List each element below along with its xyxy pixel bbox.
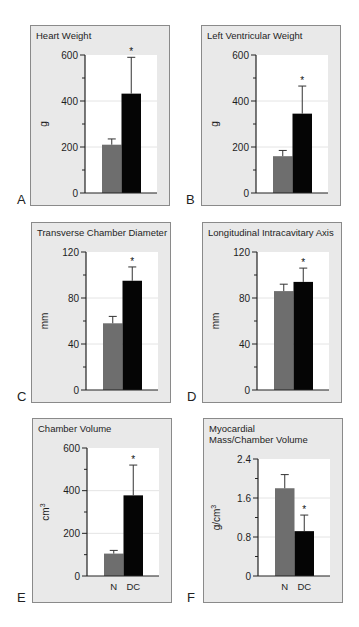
panel-letter-e: E <box>17 590 26 605</box>
y-tick-label: 0.8 <box>237 532 251 543</box>
significance-asterisk: * <box>130 256 134 267</box>
significance-asterisk: * <box>300 75 304 86</box>
y-tick-label: 400 <box>61 96 78 107</box>
bar-dc <box>124 495 144 576</box>
x-tick-label: DC <box>297 581 311 592</box>
y-axis-label: cm3 <box>39 503 51 520</box>
y-tick-label: 600 <box>61 50 78 61</box>
y-tick-label: 400 <box>232 96 249 107</box>
significance-asterisk: * <box>302 504 306 515</box>
significance-asterisk: * <box>129 46 133 57</box>
x-tick-label: N <box>110 581 117 592</box>
y-axis-label: g/cm3 <box>210 505 222 531</box>
y-axis-label: g <box>209 121 220 127</box>
panel-letter-b: B <box>186 192 195 207</box>
y-tick-label: 0 <box>72 188 78 199</box>
y-tick-label: 200 <box>63 528 80 539</box>
bar-chart-svg: N*DC0200400600cm3 <box>33 419 171 602</box>
panel-letter-a: A <box>17 192 26 207</box>
y-tick-label: 80 <box>239 293 251 304</box>
y-tick-label: 200 <box>61 142 78 153</box>
bar-chart-svg: *04080120mm <box>203 223 341 402</box>
bar-n <box>103 323 123 390</box>
y-tick-label: 0 <box>73 385 79 396</box>
y-tick-label: 40 <box>68 339 80 350</box>
bar-chart-svg: N*DC00.81.62.4g/cm3 <box>204 419 342 602</box>
y-tick-label: 200 <box>232 142 249 153</box>
chart-panel-myocardial-mass-chamber-volume: Myocardial Mass/Chamber Volume N*DC00.81… <box>203 418 343 603</box>
bar-dc <box>295 531 315 576</box>
panel-letter-c: C <box>17 389 26 404</box>
bar-dc <box>123 281 143 390</box>
chart-panel-chamber-volume: Chamber Volume N*DC0200400600cm3 <box>32 418 172 603</box>
bar-dc <box>293 114 313 193</box>
y-tick-label: 0 <box>74 571 80 582</box>
bar-n <box>102 145 122 193</box>
significance-asterisk: * <box>301 257 305 268</box>
bar-dc <box>122 94 142 193</box>
y-tick-label: 0 <box>243 188 249 199</box>
bar-dc <box>294 282 314 390</box>
significance-asterisk: * <box>131 454 135 465</box>
bar-n <box>275 488 295 576</box>
y-tick-label: 1.6 <box>237 493 251 504</box>
bar-n <box>274 291 294 390</box>
y-tick-label: 40 <box>239 339 251 350</box>
y-tick-label: 80 <box>68 293 80 304</box>
chart-panel-heart-weight: Heart Weight *0200400600g <box>30 25 170 206</box>
y-tick-label: 0 <box>245 571 251 582</box>
x-tick-label: N <box>281 581 288 592</box>
y-axis-label: g <box>38 121 49 127</box>
y-axis-label: mm <box>39 313 50 330</box>
bar-n <box>273 156 293 193</box>
y-tick-label: 400 <box>63 485 80 496</box>
y-tick-label: 600 <box>232 50 249 61</box>
chart-panel-longitudinal-intracavitary-axis: Longitudinal Intracavitary Axis *0408012… <box>202 222 342 403</box>
bar-chart-svg: *0200400600g <box>31 26 169 205</box>
y-tick-label: 2.4 <box>237 454 251 465</box>
y-tick-label: 600 <box>63 443 80 454</box>
x-tick-label: DC <box>126 581 140 592</box>
y-tick-label: 0 <box>244 385 250 396</box>
bar-chart-svg: *0200400600g <box>202 26 340 205</box>
chart-panel-transverse-chamber-diameter: Transverse Chamber Diameter *04080120mm <box>31 222 171 403</box>
y-tick-label: 120 <box>233 247 250 258</box>
bar-n <box>104 554 124 576</box>
bar-chart-svg: *04080120mm <box>32 223 170 402</box>
panel-letter-d: D <box>187 389 196 404</box>
y-axis-label: mm <box>210 313 221 330</box>
y-tick-label: 120 <box>62 247 79 258</box>
chart-panel-left-ventricular-weight: Left Ventricular Weight *0200400600g <box>201 25 341 206</box>
panel-letter-f: F <box>187 590 195 605</box>
